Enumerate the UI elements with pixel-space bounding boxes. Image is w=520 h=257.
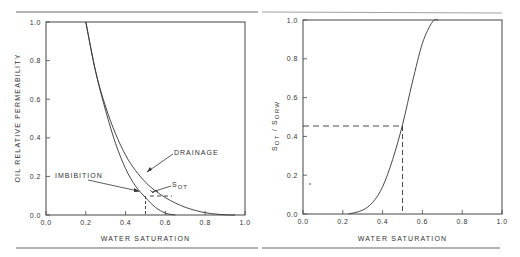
left-x-tick-label: 0.4 xyxy=(120,219,131,226)
left-x-tick-label: 1.0 xyxy=(239,219,250,226)
left-y-tick-label: 0.0 xyxy=(30,212,41,219)
right-y-tick-label: 1.0 xyxy=(287,17,298,24)
right-x-tick-label: 1.0 xyxy=(496,218,507,225)
right-x-tick-label: 0.6 xyxy=(417,218,428,225)
left-y-tick-label: 0.6 xyxy=(30,96,41,103)
right-x-axis: 0.00.20.40.60.81.0 xyxy=(297,210,507,225)
figure: 0.00.20.40.60.81.0 0.00.20.40.60.81.0 WA… xyxy=(0,0,520,257)
left-y-tick-label: 0.2 xyxy=(30,173,41,180)
right-y-tick-label: 0.6 xyxy=(287,94,298,101)
top-rule-right xyxy=(262,12,502,13)
speck xyxy=(309,183,311,185)
left-y-axis-label: OIL RELATIVE PERMEABILITY xyxy=(14,53,21,182)
right-y-tick-label: 0.8 xyxy=(287,55,298,62)
right-y-axis-label: SOT / SORW xyxy=(271,101,280,151)
right-x-tick-label: 0.8 xyxy=(457,218,468,225)
sot-label: SOT xyxy=(172,181,188,190)
right-x-tick-label: 0.2 xyxy=(337,218,348,225)
right-y-tick-label: 0.2 xyxy=(287,172,298,179)
left-x-tick-label: 0.8 xyxy=(200,219,211,226)
left-y-axis: 0.00.20.40.60.81.0 xyxy=(30,19,50,219)
left-x-tick-label: 0.6 xyxy=(160,219,171,226)
right-y-axis: 0.00.20.40.60.81.0 xyxy=(287,17,307,218)
imbibition-arrow xyxy=(88,180,138,191)
right-x-tick-label: 0.4 xyxy=(377,218,388,225)
right-y-tick-label: 0.0 xyxy=(287,211,298,218)
drainage-arrowhead xyxy=(147,167,152,172)
sot-sorw-curve xyxy=(349,20,439,214)
left-x-tick-label: 0.0 xyxy=(40,219,51,226)
drainage-label: DRAINAGE xyxy=(174,149,219,156)
left-y-tick-label: 0.4 xyxy=(30,134,41,141)
right-x-tick-label: 0.0 xyxy=(297,218,308,225)
right-x-axis-label: WATER SATURATION xyxy=(358,235,448,242)
left-x-tick-label: 0.2 xyxy=(80,219,91,226)
left-plot-frame xyxy=(46,22,245,215)
right-plot: 0.00.20.40.60.81.0 0.00.20.40.60.81.0 WA… xyxy=(271,17,508,243)
left-plot: 0.00.20.40.60.81.0 0.00.20.40.60.81.0 WA… xyxy=(14,19,251,243)
left-y-tick-label: 1.0 xyxy=(30,19,41,26)
right-y-tick-label: 0.4 xyxy=(287,133,298,140)
imbibition-curve xyxy=(86,22,176,215)
left-x-axis-label: WATER SATURATION xyxy=(101,235,191,242)
left-y-tick-label: 0.8 xyxy=(30,57,41,64)
imbibition-label: IMBIBITION xyxy=(55,172,103,179)
